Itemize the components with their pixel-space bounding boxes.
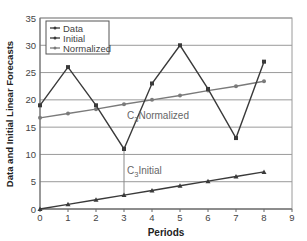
data-marker-circle [150,98,154,102]
data-marker-circle [262,79,266,83]
x-axis-label: Periods [148,227,185,238]
annotation-label: C3Initial [127,165,162,179]
y-tick-label: 15 [25,122,36,133]
x-tick-label: 6 [205,212,210,223]
data-marker-circle [178,93,182,97]
y-tick-label: 0 [31,204,36,215]
y-tick-label: 30 [25,40,36,51]
data-marker-circle [66,112,70,116]
x-tick-label: 7 [233,212,238,223]
legend-marker [54,27,57,30]
data-marker-square [262,60,266,64]
line-chart: 051015202530350123456789 C3NormalizedC3I… [0,0,307,241]
series-line [40,45,264,149]
data-marker-square [38,103,42,107]
x-tick-label: 2 [93,212,98,223]
y-tick-label: 20 [25,94,36,105]
x-tick-label: 0 [37,212,42,223]
legend-marker [54,47,57,50]
legend-label: Normalized [63,43,111,54]
data-marker-square [178,43,182,47]
x-tick-label: 9 [289,212,294,223]
y-tick-label: 10 [25,149,36,160]
x-tick-label: 8 [261,212,266,223]
x-tick-label: 1 [65,212,70,223]
y-tick-label: 35 [25,13,36,24]
annotation-label: C3Normalized [127,110,189,124]
data-marker-square [206,87,210,91]
legend-marker [54,37,57,40]
x-tick-label: 5 [177,212,182,223]
data-marker-circle [38,116,42,120]
data-marker-square [94,103,98,107]
series-data [38,43,266,151]
data-marker-square [234,136,238,140]
y-axis-label: Data and Initial Linear Forecasts [4,41,15,187]
y-tick-label: 25 [25,67,36,78]
x-tick-label: 4 [149,212,154,223]
annotations: C3NormalizedC3Initial [127,110,189,179]
y-tick-label: 5 [31,176,36,187]
data-marker-circle [234,84,238,88]
series-initial [38,169,267,211]
data-marker-square [150,81,154,85]
x-tick-label: 3 [121,212,126,223]
chart-canvas: 051015202530350123456789 C3NormalizedC3I… [0,0,307,241]
legend: DataInitialNormalized [46,21,111,54]
data-marker-circle [122,102,126,106]
data-marker-square [66,65,70,69]
data-marker-square [122,147,126,151]
